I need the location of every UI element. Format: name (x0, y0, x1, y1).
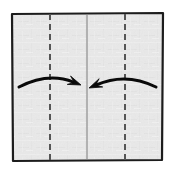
origami-diagram (0, 0, 174, 170)
origami-svg-canvas (0, 0, 174, 170)
